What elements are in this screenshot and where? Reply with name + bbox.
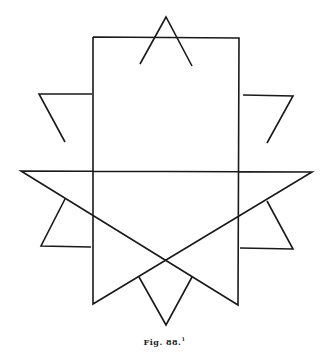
small-triangle-lower-left (41, 199, 91, 247)
figure-caption: Fig. 88.1 (0, 336, 329, 347)
small-triangle-upper-left (39, 94, 92, 142)
caption-footnote-marker: 1 (181, 336, 185, 342)
large-triangle-down (21, 37, 312, 305)
small-triangle-upper-right (243, 95, 293, 143)
small-triangle-top (140, 17, 192, 66)
caption-text: Fig. 88. (144, 337, 182, 347)
small-triangle-lower-right (240, 201, 293, 249)
star-diagram (0, 0, 329, 330)
small-triangle-bottom (139, 277, 192, 325)
